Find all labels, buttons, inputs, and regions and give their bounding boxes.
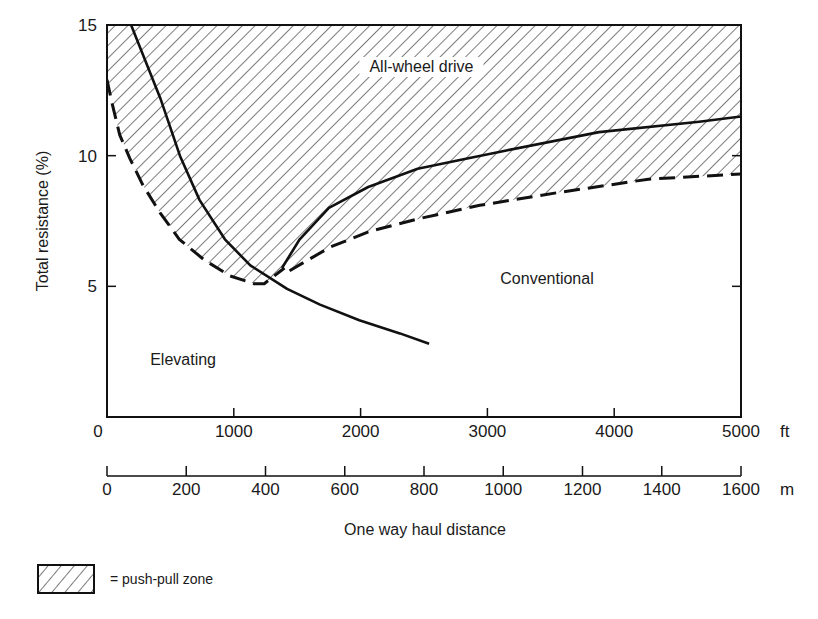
y-tick-label: 10 [78, 147, 97, 166]
x-tick-label: 3000 [468, 422, 506, 441]
x2-tick-label: 1000 [484, 480, 522, 499]
x-axis-m: 02004006008001000120014001600 [102, 466, 760, 499]
x2-unit-m: m [780, 480, 794, 499]
x-tick-label: 1000 [215, 422, 253, 441]
x-axis-title: One way haul distance [344, 521, 506, 538]
legend-label: = push-pull zone [110, 571, 213, 587]
x-unit-ft: ft [780, 422, 790, 441]
region-label: Conventional [500, 270, 593, 287]
chart: 51015 010002000300040005000 020040060080… [0, 0, 818, 619]
x2-tick-label: 200 [172, 480, 200, 499]
x2-tick-label: 0 [102, 480, 111, 499]
legend-swatch [38, 565, 94, 593]
y-axis-title: Total resistance (%) [34, 151, 51, 292]
y-tick-label: 15 [78, 16, 97, 35]
x-tick-label: 0 [93, 422, 102, 441]
x2-tick-label: 1400 [643, 480, 681, 499]
x2-tick-label: 400 [251, 480, 279, 499]
x-tick-label: 2000 [342, 422, 380, 441]
legend: = push-pull zone [38, 565, 213, 593]
region-label: All-wheel drive [369, 58, 473, 75]
x-tick-label: 5000 [722, 422, 760, 441]
x2-tick-label: 800 [410, 480, 438, 499]
region-label: Elevating [150, 351, 216, 368]
x-tick-label: 4000 [595, 422, 633, 441]
y-tick-label: 5 [88, 277, 97, 296]
x2-tick-label: 1600 [722, 480, 760, 499]
x2-tick-label: 600 [331, 480, 359, 499]
x-axis-ft: 010002000300040005000 [93, 408, 760, 441]
x2-tick-label: 1200 [564, 480, 602, 499]
